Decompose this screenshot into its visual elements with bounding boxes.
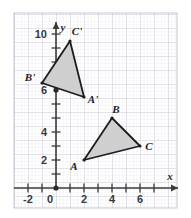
label-c-prime: C': [72, 25, 82, 37]
grid-lines: [14, 13, 177, 208]
vertex-c-prime: [68, 39, 71, 42]
x-tick-label-neg2: -2: [23, 193, 33, 205]
coordinate-plane-figure: -2 0 2 4 6 2 4 6 10 y x A B C A' B' C': [0, 0, 191, 218]
label-a: A: [69, 160, 77, 172]
x-tick-label-0: 0: [47, 193, 53, 205]
y-tick-label-2: 2: [41, 154, 47, 166]
y-tick-label-6: 6: [41, 84, 47, 96]
grid-background: [14, 13, 177, 208]
vertex-a: [82, 158, 85, 161]
vertex-b: [110, 116, 113, 119]
y-axis-label: y: [59, 21, 66, 33]
label-a-prime: A': [87, 93, 98, 105]
origin-dot: [53, 185, 58, 190]
y-tick-label-4: 4: [41, 126, 48, 138]
vertex-a-prime: [82, 95, 85, 98]
label-b: B: [111, 103, 119, 115]
vertex-c: [138, 144, 141, 147]
x-tick-label-6: 6: [137, 193, 143, 205]
y-tick-label-10: 10: [35, 28, 47, 40]
coordinate-plane-svg: -2 0 2 4 6 2 4 6 10 y x A B C A' B' C': [0, 0, 191, 218]
x-tick-label-4: 4: [109, 193, 116, 205]
label-c: C: [145, 140, 153, 152]
x-axis-label: x: [166, 170, 173, 182]
label-b-prime: B': [24, 71, 35, 83]
x-tick-label-2: 2: [81, 193, 87, 205]
